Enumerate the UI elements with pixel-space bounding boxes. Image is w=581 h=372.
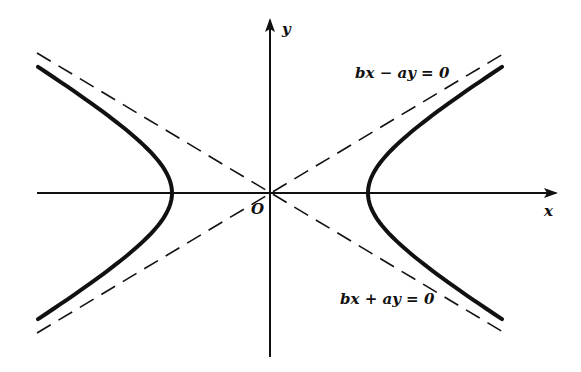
origin-label: O xyxy=(251,200,264,218)
asymptote-upper-label: bx − ay = 0 xyxy=(355,64,450,82)
asymptote-lower-label: bx + ay = 0 xyxy=(340,290,435,308)
y-axis-label: y xyxy=(281,20,292,38)
hyperbola-diagram: y x O bx − ay = 0 bx + ay = 0 xyxy=(0,0,581,372)
x-axis-label: x xyxy=(543,202,554,220)
